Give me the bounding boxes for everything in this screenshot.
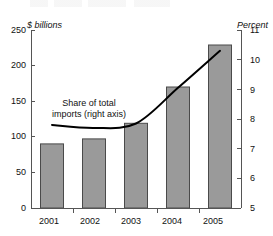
line-path <box>52 51 220 128</box>
bar-2004 <box>167 87 190 208</box>
bar-2005 <box>209 45 232 208</box>
bar-2002 <box>83 139 106 208</box>
bar-2003 <box>125 123 148 208</box>
chart-figure: $ billions Percent 250 200 150 100 50 0 … <box>0 0 273 236</box>
line-series-share-of-total-imports <box>52 51 220 128</box>
plot-area <box>0 0 273 236</box>
bar-2001 <box>41 144 64 208</box>
